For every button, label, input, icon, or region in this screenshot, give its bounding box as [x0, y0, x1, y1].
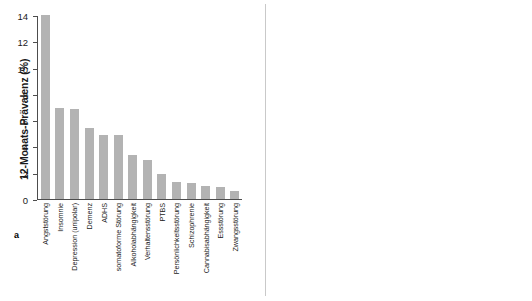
bar: [128, 155, 137, 199]
panel-a-x-axis-line: [37, 199, 242, 200]
bar: [187, 183, 196, 199]
x-tick-label-slot: Schizophrenie: [184, 201, 199, 202]
panel-a-letter: a: [14, 230, 19, 240]
y-tick-mark: 8: [33, 95, 37, 96]
x-tick-label: Essstörung: [216, 203, 225, 238]
bar-group: [125, 16, 140, 199]
y-tick-label: 8: [23, 89, 28, 100]
bar-group: [111, 16, 126, 199]
y-tick-mark: 14: [33, 16, 37, 17]
bar: [230, 191, 239, 199]
bar: [143, 160, 152, 199]
y-tick-label: 14: [17, 11, 28, 22]
y-tick-mark: 2: [33, 174, 37, 175]
x-tick-label-slot: Zwangsstörung: [228, 201, 243, 202]
bar-group: [67, 16, 82, 199]
bar-group: [155, 16, 170, 199]
y-tick-label: 6: [23, 116, 28, 127]
y-tick-label: 2: [23, 168, 28, 179]
x-tick-label: Demenz: [85, 203, 94, 229]
bar-group: [169, 16, 184, 199]
bar-group: [213, 16, 228, 199]
y-tick-label: 10: [17, 63, 28, 74]
x-tick-label-slot: somatoforme Störung: [111, 201, 126, 202]
bar-group: [228, 16, 243, 199]
bar-group: [184, 16, 199, 199]
x-tick-label-slot: Persönlichkeitsstörung: [169, 201, 184, 202]
bar: [201, 186, 210, 199]
x-tick-label: Zwangsstörung: [230, 203, 239, 252]
x-tick-label: Verhaltensstörung: [143, 203, 152, 260]
x-tick-label: Insomnie: [55, 203, 64, 232]
y-tick-mark: 4: [33, 147, 37, 148]
y-tick-label: 0: [23, 195, 28, 206]
panel-a-plot-area: 02468101214: [37, 16, 242, 200]
x-tick-label-slot: PTBS: [155, 201, 170, 202]
x-tick-label-slot: ADHS: [96, 201, 111, 202]
x-tick-label-slot: Essstörung: [213, 201, 228, 202]
bar: [55, 108, 64, 199]
x-tick-label-slot: Depression (unipolar): [67, 201, 82, 202]
bar-group: [140, 16, 155, 199]
x-tick-label-slot: Cannabisabhängigkeit: [198, 201, 213, 202]
bar-group: [38, 16, 53, 199]
bar: [99, 135, 108, 199]
x-tick-label-slot: Verhaltensstörung: [140, 201, 155, 202]
bar: [70, 109, 79, 199]
y-tick-mark: 0: [33, 200, 37, 201]
bar-group: [53, 16, 68, 199]
bar: [85, 128, 94, 199]
x-tick-label: ADHS: [99, 203, 108, 223]
y-tick-label: 4: [23, 142, 28, 153]
y-tick-label: 12: [17, 37, 28, 48]
x-tick-label: somatoforme Störung: [114, 203, 123, 271]
y-tick-mark: 12: [33, 42, 37, 43]
bar: [114, 135, 123, 199]
bar: [157, 174, 166, 199]
x-tick-label: Schizophrenie: [187, 203, 196, 248]
bar-group: [82, 16, 97, 199]
panel-a-bars: [38, 16, 242, 199]
x-tick-label: Cannabisabhängigkeit: [201, 203, 210, 273]
figure-root: 12-Monats-Prävalenz (%) 02468101214 Angs…: [0, 0, 532, 301]
bar: [41, 15, 50, 199]
panel-b: DALY (pro 10000 Personen) 02040608010012…: [266, 0, 532, 301]
x-tick-label: Depression (unipolar): [70, 203, 79, 271]
x-tick-label-slot: Alkoholabhängigkeit: [125, 201, 140, 202]
x-tick-label: PTBS: [157, 203, 166, 222]
x-tick-label-slot: Angststörung: [38, 201, 53, 202]
bar: [172, 182, 181, 199]
bar: [216, 187, 225, 199]
panel-a: 12-Monats-Prävalenz (%) 02468101214 Angs…: [0, 0, 266, 301]
bar-group: [96, 16, 111, 199]
x-tick-label: Angststörung: [41, 203, 50, 245]
x-tick-label: Persönlichkeitsstörung: [172, 203, 181, 274]
x-tick-label-slot: Demenz: [82, 201, 97, 202]
y-tick-mark: 10: [33, 69, 37, 70]
x-tick-label: Alkoholabhängigkeit: [128, 203, 137, 266]
y-tick-mark: 6: [33, 121, 37, 122]
bar-group: [198, 16, 213, 199]
x-tick-label-slot: Insomnie: [53, 201, 68, 202]
panel-a-x-tick-labels: AngststörungInsomnieDepression (unipolar…: [38, 201, 242, 202]
